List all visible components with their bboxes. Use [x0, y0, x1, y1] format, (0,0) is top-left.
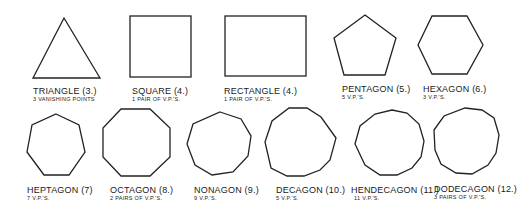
shape-vp-note: 3 VANISHING POINTS: [33, 96, 97, 103]
shape-sides: (4.): [283, 86, 297, 96]
shape-vp-note: 5 V.P.'S.: [342, 94, 410, 101]
label-triangle: TRIANGLE (3.) 3 VANISHING POINTS: [33, 86, 97, 103]
label-hendecagon: HENDECAGON (11.) 11 V.P.'S.: [351, 185, 439, 202]
dodecagon-shape: [434, 108, 499, 174]
decagon-shape: [265, 108, 336, 176]
shape-name: HEXAGON: [423, 84, 469, 94]
shape-vp-note: 3 PAIRS OF V.P.'S.: [434, 194, 517, 201]
shape-sides: (7): [81, 185, 93, 195]
square-shape: [130, 16, 191, 77]
shape-sides: (4.): [174, 86, 188, 96]
shape-sides: (12.): [498, 184, 518, 194]
shape-sides: (3.): [82, 86, 96, 96]
shape-name: NONAGON: [194, 185, 242, 195]
shape-vp-note: 3 V.P.'S.: [423, 94, 486, 101]
shape-name: DODECAGON: [434, 184, 495, 194]
shape-name: DECAGON: [276, 185, 323, 195]
shape-name: SQUARE: [132, 86, 171, 96]
shape-name: PENTAGON: [342, 84, 393, 94]
shape-vp-note: 1 PAIR OF V.P.'S.: [224, 96, 297, 103]
shape-name: TRIANGLE: [33, 86, 80, 96]
label-dodecagon: DODECAGON (12.) 3 PAIRS OF V.P.'S.: [434, 184, 517, 201]
label-octagon: OCTAGON (8.) 2 PAIRS OF V.P.'S.: [110, 185, 173, 202]
shape-sides: (5.): [396, 84, 410, 94]
heptagon-shape: [27, 114, 85, 175]
shape-sides: (6.): [472, 84, 486, 94]
label-heptagon: HEPTAGON (7) 7 V.P.'S.: [27, 185, 93, 202]
triangle-shape: [33, 18, 100, 78]
shape-sides: (9.): [245, 185, 259, 195]
hexagon-shape: [418, 16, 483, 74]
shape-name: HEPTAGON: [27, 185, 78, 195]
label-rectangle: RECTANGLE (4.) 1 PAIR OF V.P.'S.: [224, 86, 297, 103]
label-nonagon: NONAGON (9.) 9 V.P.'S.: [194, 185, 259, 202]
shape-name: RECTANGLE: [224, 86, 280, 96]
shape-sides: (10.): [326, 185, 346, 195]
hendecagon-shape: [355, 110, 424, 175]
label-square: SQUARE (4.) 1 PAIR OF V.P.'S.: [132, 86, 188, 103]
label-hexagon: HEXAGON (6.) 3 V.P.'S.: [423, 84, 486, 101]
label-decagon: DECAGON (10.) 5 V.P.'S.: [276, 185, 345, 202]
shape-vp-note: 2 PAIRS OF V.P.'S.: [110, 195, 173, 202]
shape-vp-note: 1 PAIR OF V.P.'S.: [132, 96, 188, 103]
shape-vp-note: 9 V.P.'S.: [194, 195, 259, 202]
shape-name: OCTAGON: [110, 185, 156, 195]
pentagon-shape: [334, 15, 396, 75]
octagon-shape: [103, 109, 170, 176]
nonagon-shape: [187, 112, 251, 175]
shape-name: HENDECAGON: [351, 185, 418, 195]
label-pentagon: PENTAGON (5.) 5 V.P.'S.: [342, 84, 410, 101]
shape-vp-note: 7 V.P.'S.: [27, 195, 93, 202]
shape-vp-note: 11 V.P.'S.: [351, 195, 439, 202]
shape-vp-note: 5 V.P.'S.: [276, 195, 345, 202]
shape-sides: (8.): [159, 185, 173, 195]
rectangle-shape: [225, 16, 306, 76]
